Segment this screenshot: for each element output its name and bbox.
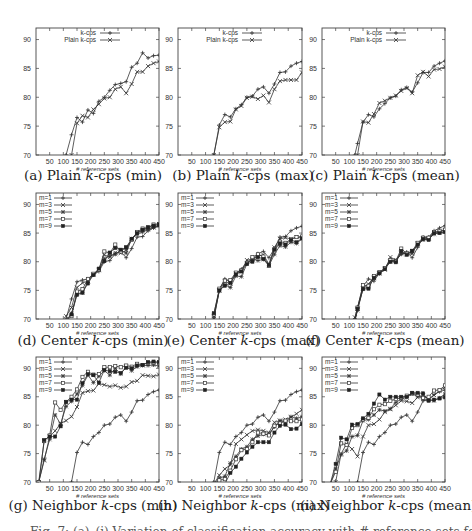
x-tick-label: 250 [98, 485, 110, 492]
x-tick-label: 250 [241, 485, 253, 492]
x-tick-label: 150 [213, 485, 225, 492]
x-tick-label: 350 [126, 485, 138, 492]
series-line [39, 362, 159, 484]
x-tick-label: 100 [343, 322, 355, 329]
series-line [66, 225, 159, 321]
y-tick-label: 80 [309, 94, 317, 101]
y-tick-label: 90 [309, 365, 317, 372]
x-tick-label: 50 [46, 158, 54, 165]
legend: m=1m=3m=5m=7m=9 [181, 358, 214, 393]
series-line [214, 239, 302, 316]
series-line [66, 226, 159, 319]
caption-g: (g) Neighbor k-cps (min) [8, 497, 178, 513]
y-tick-label: 85 [309, 393, 317, 400]
legend-label: m=5 [181, 372, 194, 379]
chart-d: 707580859050100150200250300350400450# re… [23, 193, 165, 336]
y-tick-label: 85 [23, 230, 31, 237]
y-tick-label: 90 [165, 201, 173, 208]
y-tick-label: 80 [165, 258, 173, 265]
y-tick-label: 80 [165, 94, 173, 101]
x-tick-label: 300 [398, 158, 410, 165]
y-tick-label: 70 [165, 316, 173, 323]
x-tick-label: 100 [200, 158, 212, 165]
x-tick-label: 150 [213, 158, 225, 165]
chart-b: 707580859050100150200250300350400450# re… [165, 28, 308, 172]
series-line [355, 230, 445, 321]
series-line [66, 226, 159, 316]
y-tick-label: 70 [165, 152, 173, 159]
y-tick-label: 85 [23, 393, 31, 400]
x-tick-label: 300 [398, 322, 410, 329]
x-tick-label: 200 [85, 158, 97, 165]
series-line [214, 237, 302, 319]
series-line [214, 61, 302, 155]
y-tick-label: 85 [165, 393, 173, 400]
x-tick-label: 100 [57, 158, 69, 165]
x-tick-label: 400 [425, 485, 437, 492]
x-tick-label: 100 [200, 485, 212, 492]
y-tick-label: 85 [309, 230, 317, 237]
x-tick-label: 300 [255, 485, 267, 492]
y-tick-label: 90 [23, 36, 31, 43]
series-line [214, 226, 302, 319]
legend-label: m=5 [39, 372, 52, 379]
legend-label: m=9 [325, 386, 338, 393]
x-tick-label: 300 [398, 485, 410, 492]
legend-label: m=7 [39, 215, 52, 222]
legend: m=1m=3m=5m=7m=9 [39, 358, 72, 393]
series-line [214, 417, 302, 484]
legend-label: m=3 [181, 201, 194, 208]
series-line [66, 390, 159, 484]
legend-label: Plain k-cps [64, 36, 97, 44]
legend-label: m=7 [325, 215, 338, 222]
y-tick-label: 80 [165, 422, 173, 429]
x-tick-label: 450 [296, 158, 308, 165]
x-tick-label: 350 [412, 158, 424, 165]
x-tick-label: 300 [255, 322, 267, 329]
x-tick-label: 250 [98, 322, 110, 329]
x-tick-label: 100 [343, 485, 355, 492]
caption-c: (c) Plain k-cps (mean) [300, 167, 470, 183]
caption-a: (a) Plain k-cps (min) [8, 167, 178, 183]
y-tick-label: 75 [165, 450, 173, 457]
x-tick-label: 100 [343, 158, 355, 165]
x-tick-label: 150 [213, 322, 225, 329]
y-tick-label: 80 [23, 94, 31, 101]
y-tick-label: 85 [23, 65, 31, 72]
x-tick-label: 400 [425, 322, 437, 329]
series-line [39, 363, 159, 482]
legend: m=1m=3m=5m=7m=9 [325, 194, 358, 229]
legend-label: m=1 [181, 358, 194, 365]
y-tick-label: 75 [23, 123, 31, 130]
series-line [355, 230, 445, 317]
legend-label: m=1 [325, 194, 338, 201]
series-line [355, 67, 445, 157]
legend-label: m=9 [39, 222, 52, 229]
x-tick-label: 150 [71, 485, 83, 492]
x-tick-label: 400 [139, 322, 151, 329]
y-tick-label: 70 [309, 316, 317, 323]
y-tick-label: 80 [309, 258, 317, 265]
chart-g: 707580859050100150200250300350400450# re… [23, 357, 165, 499]
series-line [39, 375, 159, 482]
x-tick-label: 450 [153, 158, 165, 165]
chart-h: 707580859050100150200250300350400450# re… [165, 357, 308, 499]
charts-canvas: 707580859050100150200250300350400450# re… [0, 0, 472, 531]
x-tick-label: 200 [371, 322, 383, 329]
x-tick-label: 200 [371, 158, 383, 165]
y-tick-label: 75 [309, 287, 317, 294]
x-tick-label: 350 [126, 158, 138, 165]
x-tick-label: 150 [357, 158, 369, 165]
x-tick-label: 400 [282, 485, 294, 492]
legend: k-cpsPlain k-cps [350, 29, 406, 44]
legend-label: m=3 [325, 365, 338, 372]
y-tick-label: 70 [23, 479, 31, 486]
series-line [355, 231, 445, 321]
x-tick-label: 150 [71, 158, 83, 165]
x-tick-label: 50 [188, 322, 196, 329]
x-tick-label: 150 [71, 322, 83, 329]
x-tick-label: 250 [384, 485, 396, 492]
x-tick-label: 400 [139, 485, 151, 492]
y-tick-label: 90 [165, 36, 173, 43]
x-tick-label: 350 [269, 158, 281, 165]
